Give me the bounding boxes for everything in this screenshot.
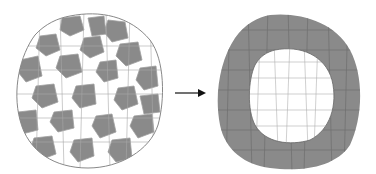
cell-sorting-diagram: [0, 0, 376, 174]
sorted-aggregate: [210, 5, 376, 174]
mixed-aggregate: [10, 5, 170, 174]
transition-arrow: [175, 89, 206, 97]
